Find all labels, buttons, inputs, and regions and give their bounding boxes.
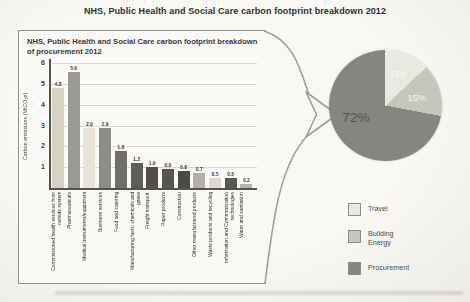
y-tick-label: 3 <box>31 122 45 129</box>
bar-value-label: 0.2 <box>239 177 255 183</box>
bar-category-label: Manufacturing fuels, chemicals and gases <box>129 192 145 276</box>
bar-value-label: 0.8 <box>176 164 192 170</box>
bar-value-label: 5.6 <box>66 65 82 71</box>
page-title: NHS, Public Health and Social Care carbo… <box>0 6 470 16</box>
pie-label-travel: 13% <box>382 69 414 79</box>
bar-value-label: 0.5 <box>207 171 223 177</box>
legend-item-travel <box>348 202 361 220</box>
y-tick-label: 4 <box>31 101 45 108</box>
legend-item-building-energy <box>348 229 361 247</box>
pie-label-procurement: 72% <box>335 110 377 125</box>
pie-chart <box>329 50 442 161</box>
bar-category-label: Paper products <box>160 192 176 276</box>
bar-value-label: 0.5 <box>223 171 239 177</box>
bar <box>193 173 205 188</box>
bar-category-label: Water and sanitation <box>238 192 254 276</box>
page-bottom-shadow <box>55 291 463 295</box>
y-tick-label: 5 <box>31 80 45 87</box>
bar <box>146 167 158 188</box>
bar <box>162 169 174 188</box>
bar <box>52 88 64 188</box>
y-tick-label: 6 <box>31 59 45 66</box>
bar <box>209 178 221 188</box>
bar-category-label: Medical instruments/equipment <box>81 192 97 276</box>
callout-bottom-curve <box>265 135 308 283</box>
bar-category-label: Food and catering <box>113 192 129 276</box>
bar-value-label: 0.9 <box>160 162 176 168</box>
legend-label-procurement: Procurement <box>368 263 418 272</box>
gridline <box>49 84 257 85</box>
bar-value-label: 1.8 <box>113 144 129 150</box>
bar <box>225 178 237 188</box>
bar-category-label: Commissioned health services from outsid… <box>50 192 66 276</box>
bar <box>178 171 190 188</box>
callout-top-curve <box>264 31 309 95</box>
pie-label-building-energy: 15% <box>400 92 434 103</box>
legend-label-building-energy: Building Energy <box>368 229 418 247</box>
bar <box>99 128 111 188</box>
y-tick-label: 1 <box>31 163 45 170</box>
bar-category-label: Construction <box>176 192 192 276</box>
bar <box>240 184 252 188</box>
bar-category-label: Other manufactured products <box>191 192 207 276</box>
bar-value-label: 1.2 <box>129 156 145 162</box>
bar <box>115 151 127 188</box>
procurement-panel: NHS, Public Health and Social Care carbo… <box>18 30 266 284</box>
bar-value-label: 2.9 <box>97 121 113 127</box>
gridline <box>49 105 257 106</box>
legend-swatch-travel <box>348 203 361 216</box>
bar-value-label: 0.7 <box>191 166 207 172</box>
legend-label-travel: Travel <box>368 204 418 213</box>
bar <box>131 163 143 188</box>
legend-swatch-procurement <box>348 262 361 275</box>
bar-category-label: Waste products and recycling <box>207 192 223 276</box>
y-tick-label: 2 <box>31 142 45 149</box>
bar-value-label: 2.9 <box>82 121 98 127</box>
legend-item-procurement <box>348 261 361 279</box>
bar-value-label: 1.0 <box>144 160 160 166</box>
bar <box>68 72 80 188</box>
gridline <box>49 146 257 147</box>
bar <box>83 128 95 188</box>
bar-category-label: Information and Communication technologi… <box>223 192 239 276</box>
bar-category-label: Pharmaceuticals <box>66 192 82 276</box>
y-axis-line <box>49 59 51 189</box>
gridline <box>49 126 257 127</box>
bar-category-label: Freight transport <box>144 192 160 276</box>
bar-chart: 1234564.8Commissioned health services fr… <box>19 31 267 285</box>
x-axis-line <box>49 188 257 190</box>
bar-category-label: Business services <box>97 192 113 276</box>
bar-value-label: 4.8 <box>50 81 66 87</box>
legend-swatch-building-energy <box>348 230 361 243</box>
